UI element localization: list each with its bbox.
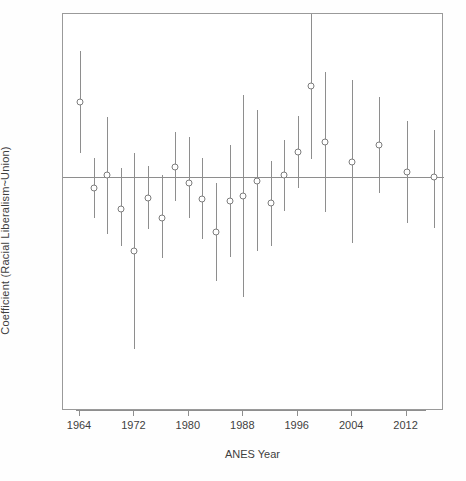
data-point	[430, 173, 437, 180]
data-point	[90, 185, 97, 192]
x-axis-tick	[79, 410, 80, 416]
x-axis-tick-label: 1996	[284, 419, 308, 431]
plot-canvas	[63, 14, 442, 409]
x-axis-tick-label: 2004	[339, 419, 363, 431]
x-axis-tick	[242, 410, 243, 416]
x-axis-line	[76, 410, 426, 411]
x-axis-tick-label: 1988	[230, 419, 254, 431]
x-axis-tick	[297, 410, 298, 416]
data-point	[199, 195, 206, 202]
x-axis-tick-label: 1980	[176, 419, 200, 431]
data-point	[376, 141, 383, 148]
data-point	[158, 215, 165, 222]
x-axis-tick-label: 2012	[393, 419, 417, 431]
y-axis-title: Coefficient (Racial Liberalism~Union)	[0, 0, 26, 481]
error-bar	[189, 137, 190, 218]
x-axis-tick-label: 1964	[67, 419, 91, 431]
data-point	[294, 148, 301, 155]
data-point	[172, 163, 179, 170]
data-point	[308, 82, 315, 89]
data-point	[131, 247, 138, 254]
data-point	[117, 206, 124, 213]
data-point	[349, 158, 356, 165]
data-point	[185, 179, 192, 186]
x-axis: 1964197219801988199620042012	[62, 410, 443, 411]
x-axis-title: ANES Year	[62, 448, 443, 460]
data-point	[213, 229, 220, 236]
chart-root: Coefficient (Racial Liberalism~Union) 19…	[0, 0, 466, 481]
x-axis-tick	[133, 410, 134, 416]
x-axis-tick	[188, 410, 189, 416]
data-point	[77, 98, 84, 105]
data-point	[281, 172, 288, 179]
data-point	[240, 193, 247, 200]
data-point	[253, 177, 260, 184]
x-axis-tick	[406, 410, 407, 416]
y-axis-title-label: Coefficient (Racial Liberalism~Union)	[0, 146, 11, 334]
plot-frame	[62, 13, 443, 410]
data-point	[104, 172, 111, 179]
x-axis-tick	[351, 410, 352, 416]
data-point	[403, 169, 410, 176]
data-point	[321, 139, 328, 146]
data-point	[267, 200, 274, 207]
x-axis-tick-label: 1972	[121, 419, 145, 431]
data-point	[226, 197, 233, 204]
data-point	[145, 195, 152, 202]
